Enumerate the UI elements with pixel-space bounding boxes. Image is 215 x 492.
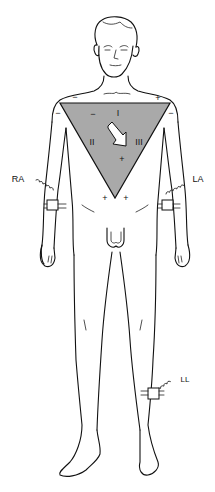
ra-electrode: [36, 179, 66, 210]
ll-label: LL: [181, 375, 190, 384]
la-label: LA: [192, 174, 203, 184]
polarity-inner-minus: −: [90, 109, 95, 119]
polarity-inner-plus: +: [119, 154, 124, 164]
polarity-right-outer: −: [168, 108, 173, 118]
lead-ii-label: II: [89, 137, 94, 147]
polarity-apex-right: +: [123, 193, 128, 203]
polarity-top-right: +: [155, 93, 160, 103]
lead-i-label: I: [117, 108, 120, 118]
lead-iii-label: III: [135, 137, 143, 147]
ll-electrode: [141, 380, 170, 399]
einthoven-triangle: [60, 103, 170, 198]
polarity-top-left: −: [72, 92, 77, 102]
einthoven-triangle-figure: I II III − + − − − + + + RA LA LL: [0, 0, 215, 492]
head: [94, 17, 139, 77]
la-electrode: [158, 184, 184, 210]
polarity-left-outer: −: [55, 108, 60, 118]
ra-label: RA: [12, 174, 25, 184]
legs-outline: [60, 252, 159, 476]
polarity-apex-left: +: [102, 193, 107, 203]
